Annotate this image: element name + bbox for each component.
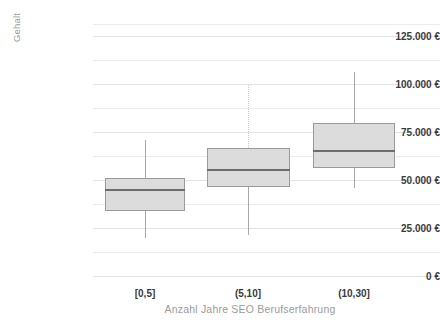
whisker-lower [248,187,249,235]
y-axis-tick-label: 50.000 € [354,175,440,186]
x-axis-tick-label: (10,30] [338,288,370,299]
box-3[interactable] [313,123,395,168]
whisker-upper [354,72,355,123]
y-axis-tick-label: 0 € [354,271,440,282]
gridline-minor [93,60,440,61]
x-axis-tick-label: [0,5] [135,288,156,299]
y-axis-tick-label: 25.000 € [354,223,440,234]
whisker-upper [145,140,146,178]
whisker-lower [354,168,355,188]
gridline-top [93,24,440,25]
x-axis-title: Anzahl Jahre SEO Berufserfahrung [0,303,440,315]
median-line-1 [105,189,185,191]
boxplot-chart: Gehalt 125.000 €100.000 €75.000 €50.000 … [0,0,440,331]
y-axis-tick-label: 100.000 € [354,79,440,90]
x-axis-tick-label: (5,10] [235,288,261,299]
box-2[interactable] [207,148,290,187]
gridline-minor [93,252,440,253]
median-line-2 [207,169,290,171]
median-line-3 [313,150,395,152]
whisker-upper [248,85,249,148]
whisker-lower [145,211,146,238]
box-1[interactable] [105,178,185,211]
gridline-minor [93,108,440,109]
plot-area: 125.000 €100.000 €75.000 €50.000 €25.000… [0,0,440,331]
y-axis-tick-label: 125.000 € [354,31,440,42]
